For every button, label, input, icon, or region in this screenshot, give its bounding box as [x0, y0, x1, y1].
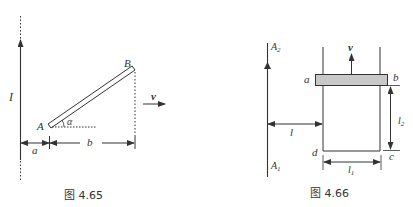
angle-label: α [67, 116, 73, 127]
wire-current-arrow [264, 62, 271, 69]
velocity-label: v [348, 41, 353, 53]
wire-top-label: A2 [270, 41, 281, 54]
corner-c-label: c [389, 150, 394, 162]
rod-AB [48, 66, 135, 128]
corner-a-label: a [304, 73, 310, 85]
velocity-label: v [151, 90, 156, 102]
sliding-bar-ab [316, 75, 388, 86]
wire-bottom-label: A1 [270, 160, 281, 173]
corner-d-label: d [312, 146, 318, 158]
end-A-label: A [36, 120, 44, 132]
caption-4-65: 图 4.65 [64, 189, 103, 202]
len-l2-label: l2 [398, 115, 405, 128]
figure-4-66: A2 A1 v a b d c l l2 l1 图 4.66 [264, 41, 405, 200]
len-l1-label: l1 [348, 164, 354, 177]
caption-4-66: 图 4.66 [310, 187, 349, 200]
dist-l-label: l [290, 126, 293, 138]
angle-arc [62, 120, 64, 127]
figure-4-65: I A B α a b v 图 4.65 [8, 16, 165, 202]
current-label: I [8, 90, 14, 104]
dist-a-label: a [32, 144, 38, 156]
end-B-label: B [124, 57, 131, 69]
corner-b-label: b [393, 71, 399, 83]
dist-b-label: b [87, 136, 93, 148]
